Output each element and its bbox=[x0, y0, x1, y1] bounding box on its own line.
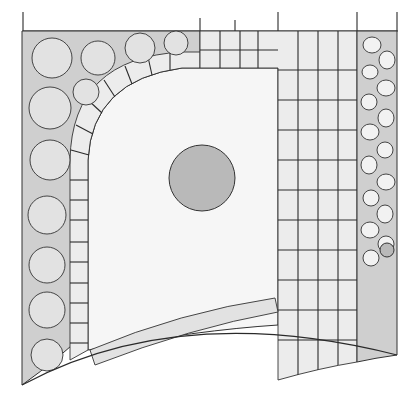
fence-posts bbox=[23, 12, 398, 31]
garden-plan-drawing bbox=[0, 0, 417, 419]
central-tree bbox=[169, 145, 235, 211]
